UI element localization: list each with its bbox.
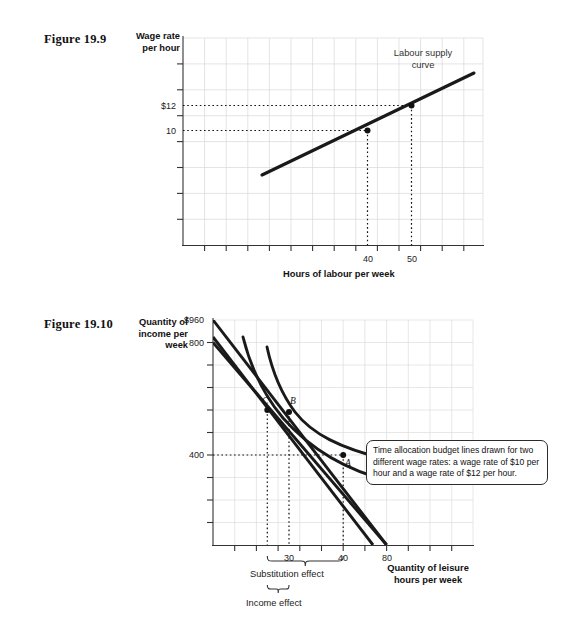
income-effect-brace (267, 585, 289, 593)
callout-box: Time allocation budget lines drawn for t… (366, 440, 548, 485)
point-label-c: C (262, 396, 268, 406)
x-axis-title-line1: Quantity of leisure (387, 563, 469, 573)
compensated-budget-line (213, 337, 373, 545)
x-tick-label-80: 80 (377, 553, 397, 563)
income-effect-label: Income effect (246, 598, 302, 608)
point-b-marker (286, 409, 292, 415)
y-tick-label-400: 400 (174, 450, 204, 460)
point-label-b: B (290, 396, 296, 406)
figure-19-10-x-axis-title: Quantity of leisure hours per week (368, 563, 488, 586)
x-tick-label-40: 40 (333, 553, 353, 563)
y-tick-label-960: $960 (174, 315, 204, 325)
y-axis-ticks-2 (207, 343, 213, 523)
point-label-a: A (345, 458, 351, 468)
x-tick-label-30: 30 (279, 553, 299, 563)
substitution-effect-label: Substitution effect (250, 569, 324, 579)
x-axis-title-line2: hours per week (394, 575, 462, 585)
figure-19-10-plot (0, 0, 561, 644)
point-c-marker (264, 407, 270, 413)
y-tick-label-800: 800 (174, 338, 204, 348)
